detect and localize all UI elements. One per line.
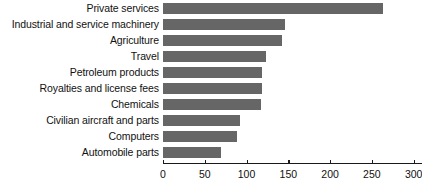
bar-track bbox=[163, 147, 422, 158]
bar-track bbox=[163, 19, 422, 30]
bar-category-label: Civilian aircraft and parts bbox=[0, 115, 159, 126]
bar-chart: Private servicesIndustrial and service m… bbox=[0, 0, 422, 189]
x-tick bbox=[372, 160, 373, 164]
x-tick-label: 300 bbox=[405, 168, 422, 180]
bar-row: Computers bbox=[0, 131, 422, 142]
bar bbox=[163, 115, 240, 126]
bar-category-label: Computers bbox=[0, 131, 159, 142]
bar-track bbox=[163, 3, 422, 14]
bar bbox=[163, 3, 383, 14]
bar-track bbox=[163, 131, 422, 142]
bar-track bbox=[163, 83, 422, 94]
bar-track bbox=[163, 51, 422, 62]
x-tick-label: 50 bbox=[199, 168, 211, 180]
x-tick bbox=[330, 160, 331, 164]
bar-rows: Private servicesIndustrial and service m… bbox=[0, 3, 422, 163]
bar-row: Royalties and license fees bbox=[0, 83, 422, 94]
bar-track bbox=[163, 35, 422, 46]
bar bbox=[163, 83, 262, 94]
bar-track bbox=[163, 115, 422, 126]
x-tick-label: 250 bbox=[363, 168, 381, 180]
bar-category-label: Industrial and service machinery bbox=[0, 19, 159, 30]
x-axis: 050100150200250300 bbox=[163, 163, 422, 189]
bar-row: Travel bbox=[0, 51, 422, 62]
bar-category-label: Travel bbox=[0, 51, 159, 62]
plot-area: Private servicesIndustrial and service m… bbox=[0, 0, 422, 189]
bar-track bbox=[163, 67, 422, 78]
bar-row: Automobile parts bbox=[0, 147, 422, 158]
x-tick bbox=[205, 160, 206, 164]
bar-category-label: Agriculture bbox=[0, 35, 159, 46]
bar-row: Private services bbox=[0, 3, 422, 14]
bar bbox=[163, 35, 282, 46]
bar-row: Civilian aircraft and parts bbox=[0, 115, 422, 126]
bar bbox=[163, 67, 262, 78]
bar-row: Chemicals bbox=[0, 99, 422, 110]
x-axis-line bbox=[163, 163, 422, 164]
bar-row: Petroleum products bbox=[0, 67, 422, 78]
x-tick-label: 200 bbox=[321, 168, 339, 180]
bar bbox=[163, 51, 266, 62]
x-tick-label: 100 bbox=[238, 168, 256, 180]
bar bbox=[163, 99, 261, 110]
bar-row: Industrial and service machinery bbox=[0, 19, 422, 30]
x-tick bbox=[288, 160, 289, 164]
x-tick bbox=[247, 160, 248, 164]
x-tick-label: 150 bbox=[280, 168, 298, 180]
bar bbox=[163, 131, 237, 142]
bar-category-label: Automobile parts bbox=[0, 147, 159, 158]
bar-track bbox=[163, 99, 422, 110]
x-tick bbox=[163, 160, 164, 164]
bar-row: Agriculture bbox=[0, 35, 422, 46]
bar-category-label: Royalties and license fees bbox=[0, 83, 159, 94]
bar-category-label: Petroleum products bbox=[0, 67, 159, 78]
x-tick bbox=[414, 160, 415, 164]
bar bbox=[163, 147, 221, 158]
bar-category-label: Private services bbox=[0, 3, 159, 14]
bar bbox=[163, 19, 285, 30]
bar-category-label: Chemicals bbox=[0, 99, 159, 110]
x-tick-label: 0 bbox=[160, 168, 166, 180]
